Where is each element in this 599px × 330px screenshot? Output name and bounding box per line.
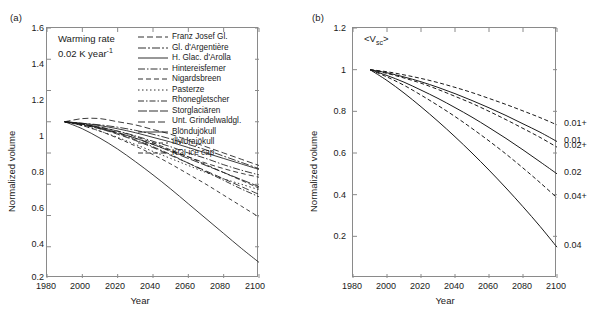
panel-a-xtick-2060: 2060 (167, 281, 203, 291)
legend-key-H. Glac. d'Arolla (138, 53, 168, 63)
legend-key-Hintereisferner (138, 64, 168, 74)
legend-item-KGI ice cap: KGI ice cap (138, 148, 241, 159)
panel-b-x-axis-title: Year (405, 295, 485, 306)
curve-end-label-0.02: 0.02 (564, 167, 582, 177)
figure-root: (a) Normalized volume Year 1.6 1.4 1.2 1… (0, 0, 599, 330)
legend-item-Pasterze: Pasterze (138, 85, 241, 96)
legend-label-Franz Josef Gl.: Franz Josef Gl. (172, 32, 228, 43)
legend-item-Hintereisferner: Hintereisferner (138, 64, 241, 75)
panel-a-ytick-1.6: 1.6 (8, 23, 44, 33)
legend-item-Gl. d'Argentière: Gl. d'Argentière (138, 43, 241, 54)
legend-label-Unt. Grindelwaldgl.: Unt. Grindelwaldgl. (172, 116, 241, 127)
panel-a-xtick-2020: 2020 (97, 281, 133, 291)
panel-a-xtick-2000: 2000 (62, 281, 98, 291)
legend-key-Illvidrajökull (138, 138, 168, 148)
legend-label-Hintereisferner: Hintereisferner (172, 64, 226, 75)
legend-key-Franz Josef Gl. (138, 32, 168, 42)
legend-key-Storglaciären (138, 106, 168, 116)
legend-label-H. Glac. d'Arolla: H. Glac. d'Arolla (172, 53, 231, 64)
panel-a-ytick-0.6: 0.6 (8, 203, 44, 213)
panel-a-label: (a) (10, 12, 22, 23)
legend-item-H. Glac. d'Arolla: H. Glac. d'Arolla (138, 53, 241, 64)
panel-b-xtick-2020: 2020 (402, 281, 438, 291)
panel-b-xtick-1980: 1980 (334, 281, 370, 291)
panel-a-xtick-2040: 2040 (132, 281, 168, 291)
panel-b-ytick-0.8: 0.8 (310, 106, 346, 116)
legend-item-Storglaciären: Storglaciären (138, 106, 241, 117)
curve-end-label-0.02+: 0.02+ (564, 140, 587, 150)
panel-a-xtick-2080: 2080 (202, 281, 238, 291)
panel-b-xtick-2100: 2100 (538, 281, 574, 291)
panel-a-legend: Franz Josef Gl.Gl. d'ArgentièreH. Glac. … (138, 32, 241, 159)
warming-rate-line2: 0.02 K year-1 (58, 45, 115, 60)
legend-key-Rhonegletscher (138, 96, 168, 106)
legend-label-KGI ice cap: KGI ice cap (172, 148, 214, 159)
curve-end-label-0.04: 0.04 (564, 240, 582, 250)
panel-b-plot-area (352, 27, 556, 277)
panel-b-vsc-annotation: <Vsc> (364, 33, 388, 49)
panel-b-label: (b) (312, 12, 324, 23)
panel-a-ytick-0.8: 0.8 (8, 167, 44, 177)
curve-0.02 (370, 70, 557, 174)
legend-item-Illvidrajökull: Illvidrajökull (138, 137, 241, 148)
panel-b-ytick-1.0: 1 (310, 65, 346, 75)
panel-a-xtick-1980: 1980 (28, 281, 64, 291)
panel-b-xtick-2000: 2000 (368, 281, 404, 291)
panel-a-warming-annotation: Warming rate 0.02 K year-1 (58, 33, 115, 60)
curve-0.04 (370, 70, 557, 248)
panel-a-ytick-1.0: 1 (8, 131, 44, 141)
legend-item-Rhonegletscher: Rhonegletscher (138, 95, 241, 106)
panel-b-ytick-1.2: 1.2 (310, 23, 346, 33)
legend-label-Blöndujökull: Blöndujökull (172, 127, 216, 138)
panel-b-ytick-0.4: 0.4 (310, 190, 346, 200)
panel-a-x-axis-title: Year (100, 295, 180, 306)
panel-a-ytick-0.4: 0.4 (8, 239, 44, 249)
legend-key-KGI ice cap (138, 148, 168, 158)
panel-a-ytick-1.4: 1.4 (8, 59, 44, 69)
legend-item-Unt. Grindelwaldgl.: Unt. Grindelwaldgl. (138, 116, 241, 127)
legend-label-Rhonegletscher: Rhonegletscher (172, 95, 229, 106)
legend-key-Pasterze (138, 85, 168, 95)
panel-b-xtick-2060: 2060 (470, 281, 506, 291)
panel-b-ytick-0.2: 0.2 (310, 231, 346, 241)
legend-label-Storglaciären: Storglaciären (172, 106, 220, 117)
panel-b-ytick-0.6: 0.6 (310, 148, 346, 158)
legend-key-Blöndujökull (138, 127, 168, 137)
panel-b-xtick-2040: 2040 (436, 281, 472, 291)
legend-label-Gl. d'Argentière: Gl. d'Argentière (172, 43, 229, 54)
curve-0.02+ (370, 70, 557, 148)
curve-0.01 (370, 70, 557, 142)
legend-key-Nigardsbreen (138, 74, 168, 84)
legend-label-Illvidrajökull: Illvidrajökull (172, 137, 214, 148)
legend-key-Gl. d'Argentière (138, 43, 168, 53)
legend-item-Nigardsbreen: Nigardsbreen (138, 74, 241, 85)
curve-end-label-0.01+: 0.01+ (564, 118, 587, 128)
panel-b-curves (353, 28, 557, 278)
legend-key-Unt. Grindelwaldgl. (138, 117, 168, 127)
panel-a: (a) Normalized volume Year 1.6 1.4 1.2 1… (0, 0, 300, 330)
panel-a-xtick-2100: 2100 (237, 281, 273, 291)
panel-b-xtick-2080: 2080 (504, 281, 540, 291)
panel-a-ytick-1.2: 1.2 (8, 95, 44, 105)
legend-label-Pasterze: Pasterze (172, 85, 204, 96)
legend-item-Franz Josef Gl.: Franz Josef Gl. (138, 32, 241, 43)
legend-label-Nigardsbreen: Nigardsbreen (172, 74, 221, 85)
curve-end-label-0.04+: 0.04+ (564, 191, 587, 201)
legend-item-Blöndujökull: Blöndujökull (138, 127, 241, 138)
panel-b: (b) Normalized volume Year 1.2 1 0.8 0.6… (300, 0, 599, 330)
warming-rate-line1: Warming rate (58, 33, 115, 45)
